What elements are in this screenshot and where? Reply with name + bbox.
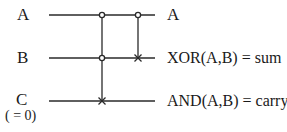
control-dot-icon [99, 55, 104, 60]
control-dot-icon [135, 12, 140, 17]
circuit-diagram [0, 0, 287, 132]
control-dot-icon [99, 12, 104, 17]
